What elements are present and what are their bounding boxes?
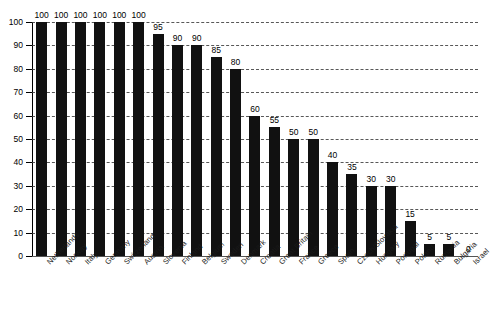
- bar-slot[interactable]: 50: [303, 22, 322, 256]
- bar-value-label: 100: [93, 10, 107, 20]
- y-axis-tick: [26, 256, 32, 257]
- bar[interactable]: 85: [211, 57, 222, 256]
- bar-slot[interactable]: 30: [362, 22, 381, 256]
- bar-value-label: 100: [132, 10, 146, 20]
- bar-value-label: 40: [328, 150, 337, 160]
- bar[interactable]: 100: [94, 22, 105, 256]
- bar-value-label: 100: [112, 10, 126, 20]
- bar-value-label: 50: [308, 127, 317, 137]
- y-axis-tick-label: 40: [14, 157, 23, 167]
- y-axis-tick-label: 90: [14, 40, 23, 50]
- plot-area: 0102030405060708090100100100100100100100…: [32, 22, 478, 256]
- bar-slot[interactable]: 15: [400, 22, 419, 256]
- bar-value-label: 100: [35, 10, 49, 20]
- bar[interactable]: 90: [191, 45, 202, 256]
- y-axis-tick-label: 70: [14, 87, 23, 97]
- bar-slot[interactable]: 60: [245, 22, 264, 256]
- bar-value-label: 60: [250, 104, 259, 114]
- bar-slot[interactable]: 100: [32, 22, 51, 256]
- bar[interactable]: 35: [346, 174, 357, 256]
- bar-value-label: 50: [289, 127, 298, 137]
- bar-value-label: 90: [192, 33, 201, 43]
- bar-value-label: 35: [347, 162, 356, 172]
- bar[interactable]: 60: [249, 116, 260, 256]
- bar-slot[interactable]: 40: [323, 22, 342, 256]
- bar-slot[interactable]: 100: [129, 22, 148, 256]
- bar-value-label: 55: [270, 115, 279, 125]
- y-axis-tick-label: 0: [18, 251, 23, 261]
- bar-value-label: 80: [231, 57, 240, 67]
- bar-slot[interactable]: 100: [110, 22, 129, 256]
- bar-value-label: 90: [173, 33, 182, 43]
- bar-slot[interactable]: 85: [207, 22, 226, 256]
- bar-slot[interactable]: 35: [342, 22, 361, 256]
- bar[interactable]: 90: [172, 45, 183, 256]
- y-axis-tick-label: 100: [9, 17, 23, 27]
- y-axis-tick-label: 30: [14, 181, 23, 191]
- bar-slot[interactable]: 100: [51, 22, 70, 256]
- bar[interactable]: 100: [114, 22, 125, 256]
- bar-value-label: 30: [386, 174, 395, 184]
- bar-value-label: 30: [367, 174, 376, 184]
- y-axis-tick-label: 60: [14, 111, 23, 121]
- y-axis-tick-label: 20: [14, 204, 23, 214]
- bar-chart: 0102030405060708090100100100100100100100…: [0, 0, 499, 318]
- bar-value-label: 100: [54, 10, 68, 20]
- bar-slot[interactable]: 50: [284, 22, 303, 256]
- bar-slot[interactable]: 80: [226, 22, 245, 256]
- y-axis-tick-label: 80: [14, 64, 23, 74]
- y-axis-tick-label: 10: [14, 228, 23, 238]
- bar[interactable]: 100: [56, 22, 67, 256]
- bar-slot[interactable]: 5: [439, 22, 458, 256]
- bar-value-label: 100: [73, 10, 87, 20]
- y-axis-tick-label: 50: [14, 134, 23, 144]
- bar[interactable]: 80: [230, 69, 241, 256]
- bar-value-label: 95: [153, 22, 162, 32]
- bar-value-label: 15: [405, 209, 414, 219]
- bar-slot[interactable]: 100: [71, 22, 90, 256]
- bar-slot[interactable]: 95: [148, 22, 167, 256]
- bar-value-label: 85: [211, 45, 220, 55]
- bar[interactable]: 100: [36, 22, 47, 256]
- bar-slot[interactable]: 5: [420, 22, 439, 256]
- bar-slot[interactable]: 0: [459, 22, 478, 256]
- bar-value-label: 5: [427, 232, 432, 242]
- bar-slot[interactable]: 55: [265, 22, 284, 256]
- bar-slot[interactable]: 100: [90, 22, 109, 256]
- bar[interactable]: 55: [269, 127, 280, 256]
- bar[interactable]: 95: [153, 34, 164, 256]
- bar[interactable]: 100: [133, 22, 144, 256]
- bar-slot[interactable]: 90: [168, 22, 187, 256]
- bar[interactable]: 100: [75, 22, 86, 256]
- bar-slot[interactable]: 90: [187, 22, 206, 256]
- bar-slot[interactable]: 30: [381, 22, 400, 256]
